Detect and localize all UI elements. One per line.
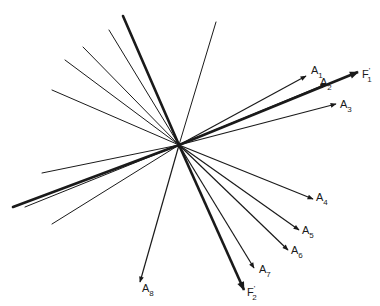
vector-labels: A1A2F'1A3A4A5A6A7F'2A8 — [142, 64, 372, 302]
label-a3: A3 — [340, 98, 352, 114]
arrow-a3 — [179, 104, 336, 145]
reference-lines — [13, 16, 216, 224]
reference-line — [83, 47, 179, 145]
label-a2: A2 — [320, 76, 332, 92]
reference-line — [25, 145, 179, 207]
arrow-a1 — [179, 76, 306, 145]
label-a8: A8 — [142, 282, 154, 298]
reference-line — [179, 22, 216, 145]
vector-arrows — [140, 72, 358, 290]
vector-diagram: A1A2F'1A3A4A5A6A7F'2A8 — [0, 0, 380, 306]
reference-line — [13, 145, 179, 207]
label-f2p: F'2 — [247, 284, 257, 302]
label-a7: A7 — [259, 263, 271, 279]
label-a4: A4 — [316, 191, 328, 207]
reference-line — [42, 145, 179, 173]
label-f1p: F'1 — [362, 66, 372, 84]
reference-line — [109, 30, 179, 145]
label-a6: A6 — [291, 244, 303, 260]
vector-star-figure: A1A2F'1A3A4A5A6A7F'2A8 — [0, 0, 380, 306]
label-a5: A5 — [302, 224, 314, 240]
reference-line — [123, 16, 179, 145]
